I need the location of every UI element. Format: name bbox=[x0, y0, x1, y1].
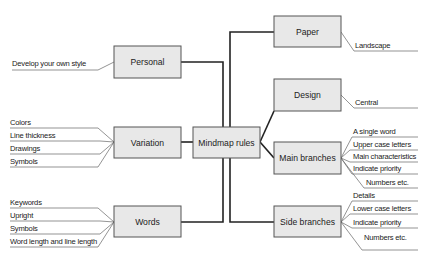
leaf-text: Landscape bbox=[355, 41, 390, 50]
leaf-text: Details bbox=[353, 191, 375, 200]
leaf-line bbox=[341, 95, 418, 108]
leaf-text: Word length and line length bbox=[10, 237, 97, 246]
connector-main-branches bbox=[260, 142, 274, 158]
node-side-branches[interactable]: Side branches bbox=[274, 206, 341, 237]
node-label: Variation bbox=[131, 138, 164, 148]
mindmap-diagram: Personal Variation Words Mindmap rules P… bbox=[0, 0, 429, 260]
connector-side-branches bbox=[230, 158, 274, 222]
leaf-text: Main characteristics bbox=[353, 152, 417, 161]
leaf-text: Keywords bbox=[10, 198, 42, 207]
connector-design bbox=[260, 111, 274, 142]
node-paper[interactable]: Paper bbox=[274, 16, 341, 47]
leaf-text: Central bbox=[355, 98, 379, 107]
leaf-text: Indicate priority bbox=[353, 164, 401, 173]
connector-personal bbox=[181, 62, 223, 127]
node-mindmap-rules[interactable]: Mindmap rules bbox=[193, 127, 260, 158]
node-label: Design bbox=[294, 90, 321, 100]
connector-words bbox=[181, 158, 223, 222]
leaf-text: Develop your own style bbox=[12, 59, 86, 68]
leaf-text: Symbols bbox=[10, 157, 38, 166]
leaf-text: Lower case letters bbox=[353, 204, 411, 213]
node-main-branches[interactable]: Main branches bbox=[274, 142, 341, 174]
leaf-text: Drawings bbox=[10, 144, 40, 153]
leaf-text: Upper case letters bbox=[353, 140, 411, 149]
leaf-line bbox=[10, 141, 114, 142]
node-label: Paper bbox=[296, 27, 319, 37]
node-personal[interactable]: Personal bbox=[114, 46, 181, 78]
node-label: Side branches bbox=[280, 217, 335, 227]
node-label: Words bbox=[135, 217, 160, 227]
leaf-text: Numbers etc. bbox=[366, 178, 409, 187]
node-label: Personal bbox=[131, 57, 165, 67]
leaf-text: Indicate priority bbox=[353, 218, 401, 227]
leaf-text: Upright bbox=[10, 211, 34, 220]
leaf-line bbox=[10, 221, 114, 222]
node-label: Main branches bbox=[279, 153, 335, 163]
leaf-text: Numbers etc. bbox=[364, 233, 407, 242]
node-design[interactable]: Design bbox=[274, 79, 341, 111]
leaf-text: Colors bbox=[10, 118, 31, 127]
node-label: Mindmap rules bbox=[198, 138, 254, 148]
node-words[interactable]: Words bbox=[114, 206, 181, 237]
leaf-text: Symbols bbox=[10, 224, 38, 233]
node-variation[interactable]: Variation bbox=[114, 127, 181, 158]
leaf-text: Line thickness bbox=[10, 131, 56, 140]
leaf-text: A single word bbox=[353, 127, 396, 136]
connector-paper bbox=[230, 32, 274, 127]
